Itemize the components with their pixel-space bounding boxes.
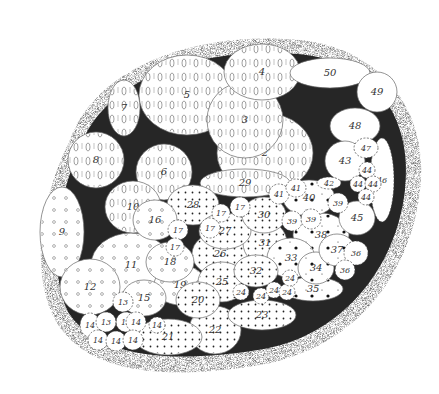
lobe-label: 17 [205,224,216,233]
lobe-label: 17 [235,203,246,212]
lobe-14: 14 [149,317,165,333]
lobe-label: 34 [310,262,323,273]
lobe-label: 36 [351,249,361,258]
lobe-label: 24 [255,292,266,301]
lobe-label: 13 [118,298,128,307]
lobe-label: 4 [258,66,265,77]
lobe-17: 17 [166,238,184,256]
lobe-label: 50 [324,67,337,78]
lobe-label: 17 [216,209,227,218]
lobe-17: 17 [168,220,188,240]
lobe-label: 12 [84,281,97,292]
lobe-label: 6 [161,166,168,177]
lobe-49: 49 [357,72,397,112]
lobe-39: 39 [301,209,321,229]
lobe-24: 24 [233,284,249,300]
lobe-24: 24 [279,284,295,300]
lobe-label: 44 [361,166,372,175]
lobe-32: 32 [234,255,278,287]
lobe-7: 7 [108,80,140,136]
lobe-label: 22 [208,324,222,335]
lobe-13: 13 [96,312,116,332]
lobe-label: 24 [284,274,295,283]
lobe-label: 43 [338,155,352,166]
lobe-8: 8 [68,132,124,188]
lobe-48: 48 [330,108,380,144]
lobe-label: 17 [173,226,184,235]
lobe-label: 14 [111,337,121,346]
lobe-label: 42 [323,179,334,188]
lobe-label: 44 [360,193,371,202]
lobe-label: 18 [164,256,177,267]
lobe-36: 36 [335,260,355,280]
lobe-label: 48 [348,120,362,131]
lobe-24: 24 [282,270,298,286]
lobe-label: 25 [215,276,229,287]
lobe-23: 23 [228,300,296,330]
lobe-label: 29 [238,177,252,188]
lobe-label: 14 [152,321,162,330]
lobe-label: 39 [333,199,343,208]
lobe-label: 39 [287,217,297,226]
lobe-12: 12 [60,259,120,315]
lobe-17: 17 [230,197,250,217]
figure-canvas: 2531149126810292226382150192823463118253… [0,0,439,394]
lobe-label: 9 [59,226,66,237]
lobe-41: 41 [286,179,306,197]
lobe-label: 14 [85,321,95,330]
lobe-label: 24 [268,286,279,295]
lobe-14: 14 [123,330,143,350]
lobe-label: 24 [235,288,246,297]
lobe-label: 41 [290,184,301,193]
lobe-label: 7 [121,102,128,113]
lobe-label: 36 [340,266,350,275]
lobe-39: 39 [328,193,348,213]
lobe-20: 20 [176,282,220,318]
lobe-50: 50 [290,58,370,88]
lobe-label: 11 [125,259,138,270]
lobe-label: 13 [101,318,111,327]
lobe-label: 30 [258,209,271,220]
lobe-41: 41 [269,184,289,204]
lobe-label: 45 [350,212,364,223]
lobe-44: 44 [359,162,375,178]
lobe-label: 40 [302,192,316,203]
lobe-label: 44 [367,180,378,189]
lobe-label: 41 [273,190,284,199]
lobe-label: 15 [138,292,151,303]
lobe-label: 5 [184,89,190,100]
lobe-label: 24 [281,288,292,297]
lobe-label: 39 [306,215,316,224]
lobe-42: 42 [317,177,341,189]
lobe-label: 23 [255,309,269,320]
lobe-14: 14 [88,330,108,350]
lobe-label: 31 [259,237,272,248]
lobe-39: 39 [282,211,302,231]
lobe-label: 32 [250,265,263,276]
lobe-label: 14 [128,336,138,345]
lobe-44: 44 [358,189,374,205]
lobe-label: 28 [186,199,200,210]
lobe-label: 47 [360,144,372,153]
lobe-label: 33 [285,252,298,263]
lobe-14: 14 [106,331,126,351]
lobe-4: 4 [224,44,300,100]
lobe-label: 14 [131,318,141,327]
lobe-label: 44 [352,180,363,189]
lobe-47: 47 [354,138,378,158]
lobe-label: 16 [149,214,162,225]
lobe-label: 49 [370,86,384,97]
lobe-label: 21 [161,331,175,342]
lobe-label: 8 [93,154,99,165]
lobe-label: 14 [93,336,103,345]
lobe-label: 20 [191,294,205,305]
lobe-label: 37 [331,244,344,255]
lobe-label: 3 [242,114,248,125]
lobe-label: 26 [213,248,227,259]
lobe-14: 14 [126,312,146,332]
lobe-17: 17 [212,204,230,222]
lobe-label: 17 [170,243,181,252]
lobe-13: 13 [113,292,133,312]
lobe-label: 35 [307,283,320,294]
